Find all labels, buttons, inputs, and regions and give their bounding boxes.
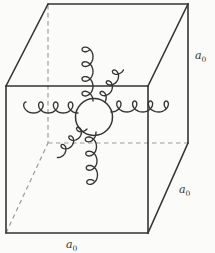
gluon-coil-bottom [85, 132, 97, 184]
label-a0-right-edge-sub: 0 [202, 55, 207, 64]
gluon-coil-top [82, 47, 93, 101]
label-a0-lower-right-edge-sub: 0 [186, 189, 191, 198]
edge-top-left-depth [6, 4, 48, 86]
label-a0-bottom-edge-sub: 0 [73, 244, 78, 253]
gluon-coil-lower-left [57, 127, 87, 157]
label-a0-right-edge: a0 [195, 50, 206, 63]
hidden-edge-bottom-left-depth [6, 143, 48, 233]
gluon-coil-left [24, 102, 78, 113]
physics-cube-diagram: a0 a0 a0 [0, 0, 215, 253]
edge-top-right-depth [148, 4, 188, 86]
label-a0-lower-right-edge: a0 [179, 184, 190, 197]
diagram-canvas [0, 0, 215, 253]
label-a0-bottom-edge: a0 [66, 239, 77, 252]
gluon-coil-right [111, 101, 168, 112]
